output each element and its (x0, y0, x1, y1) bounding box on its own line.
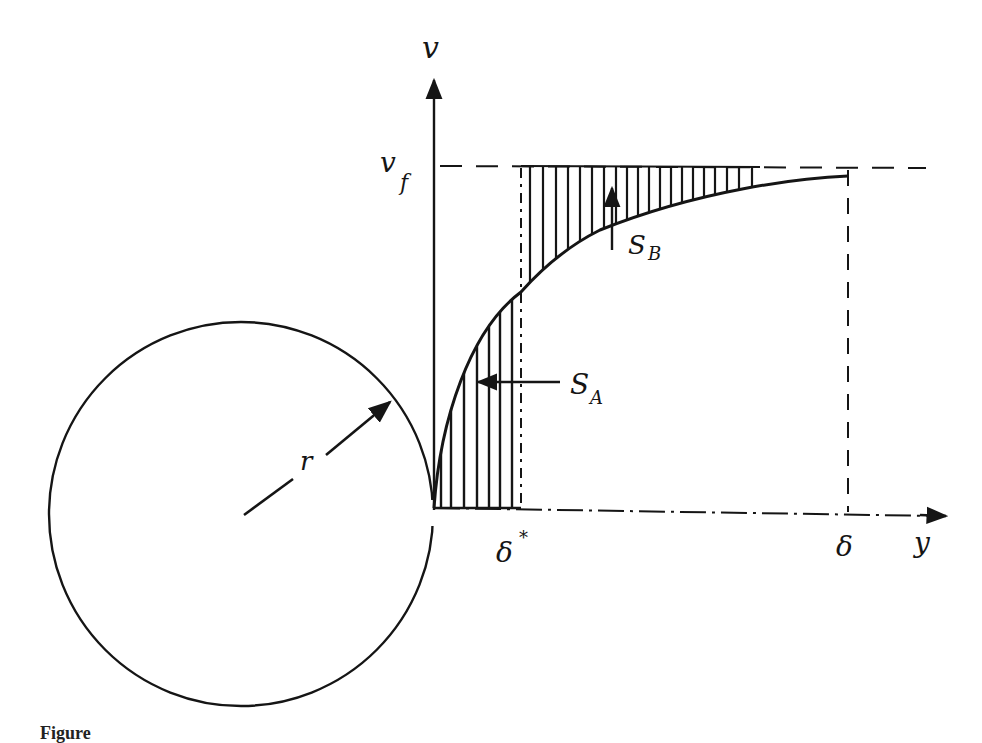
velocity-axis-label: v (422, 30, 439, 65)
area-b-label: S (628, 230, 646, 260)
delta-star-label: δ (496, 536, 513, 569)
figure-caption: Figure (40, 724, 91, 742)
delta-star-superscript: * (519, 527, 528, 548)
distance-axis (434, 508, 946, 516)
free-stream-label: v (380, 146, 396, 179)
velocity-profile-curve (434, 176, 848, 508)
radius-label: r (300, 446, 314, 476)
hatched-area-a (441, 160, 512, 510)
area-a-label: S (570, 368, 589, 401)
area-b-topline (521, 166, 760, 167)
delta-label: δ (836, 530, 853, 563)
free-stream-subscript: f (398, 170, 412, 195)
area-b-subscript: B (647, 243, 661, 264)
distance-axis-label: y (912, 526, 931, 559)
radius-arrow (244, 402, 390, 515)
area-a-subscript: A (588, 387, 603, 408)
